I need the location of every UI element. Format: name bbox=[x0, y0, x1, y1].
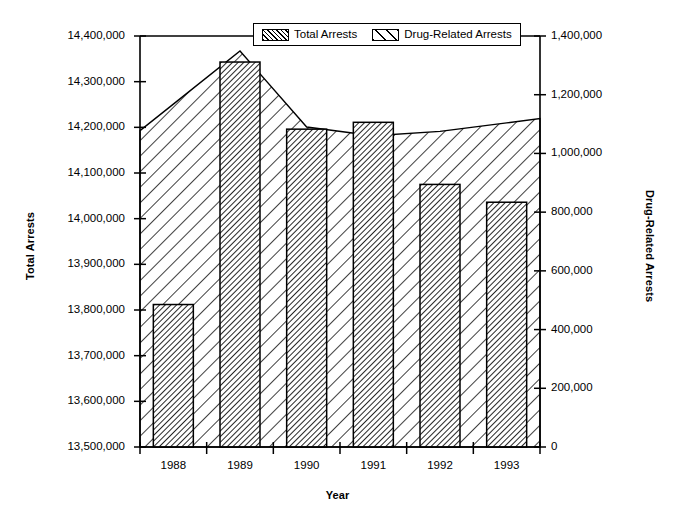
y-tick-label-left: 14,200,000 bbox=[25, 121, 125, 133]
y-tick-label-right: 200,000 bbox=[551, 382, 651, 394]
legend-label-total-arrests: Total Arrests bbox=[294, 29, 357, 41]
drug-related-arrests-area bbox=[140, 51, 540, 447]
y-tick-label-left: 13,700,000 bbox=[25, 350, 125, 362]
y-tick-label-right: 1,200,000 bbox=[551, 89, 651, 101]
chart-legend: Total Arrests Drug-Related Arrests bbox=[253, 23, 521, 46]
chart-figure: Total Arrests Drug-Related Arrests Year bbox=[0, 0, 675, 521]
legend-label-drug-related-arrests: Drug-Related Arrests bbox=[404, 29, 511, 41]
y-tick-label-right: 600,000 bbox=[551, 265, 651, 277]
y-tick-label-left: 13,900,000 bbox=[25, 258, 125, 270]
y-tick-label-right: 1,400,000 bbox=[551, 30, 651, 42]
area-path bbox=[140, 51, 540, 447]
legend-swatch-dense-hatch-icon bbox=[262, 29, 289, 41]
bar-1992 bbox=[420, 184, 460, 447]
y-tick-label-left: 13,800,000 bbox=[25, 304, 125, 316]
bar-1989 bbox=[220, 62, 260, 447]
y-tick-label-left: 14,300,000 bbox=[25, 76, 125, 88]
y-tick-label-right: 800,000 bbox=[551, 206, 651, 218]
legend-item-drug-related-arrests: Drug-Related Arrests bbox=[372, 29, 511, 41]
y-tick-label-left: 14,000,000 bbox=[25, 213, 125, 225]
bar-1988 bbox=[153, 305, 193, 447]
legend-swatch-sparse-hatch-icon bbox=[372, 29, 399, 41]
y-tick-label-right: 400,000 bbox=[551, 324, 651, 336]
bar-1991 bbox=[353, 122, 393, 447]
y-tick-label-right: 0 bbox=[551, 441, 651, 453]
bar-1993 bbox=[487, 202, 527, 447]
legend-item-total-arrests: Total Arrests bbox=[262, 29, 357, 41]
y-tick-label-left: 13,500,000 bbox=[25, 441, 125, 453]
y-tick-label-left: 13,600,000 bbox=[25, 395, 125, 407]
bar-1990 bbox=[287, 129, 327, 447]
x-tick-label-1993: 1993 bbox=[467, 460, 547, 472]
y-tick-label-left: 14,100,000 bbox=[25, 167, 125, 179]
y-tick-label-right: 1,000,000 bbox=[551, 147, 651, 159]
y-tick-label-left: 14,400,000 bbox=[25, 30, 125, 42]
